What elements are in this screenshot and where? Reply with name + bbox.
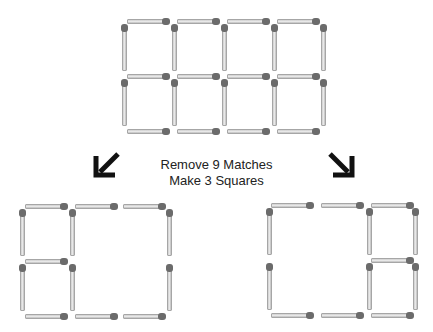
match-head bbox=[60, 313, 68, 320]
match-head bbox=[162, 73, 170, 80]
match-vertical[interactable] bbox=[122, 25, 127, 71]
match-head bbox=[60, 258, 68, 265]
match-horizontal[interactable] bbox=[123, 204, 165, 209]
match-horizontal[interactable] bbox=[371, 203, 413, 208]
match-horizontal[interactable] bbox=[75, 314, 117, 319]
match-head bbox=[221, 79, 228, 87]
match-head bbox=[320, 24, 327, 32]
match-head bbox=[366, 208, 373, 216]
match-vertical[interactable] bbox=[272, 80, 277, 126]
match-head bbox=[69, 264, 76, 272]
match-head bbox=[271, 79, 278, 87]
match-vertical[interactable] bbox=[267, 209, 272, 255]
match-head bbox=[266, 208, 273, 216]
match-head bbox=[262, 18, 270, 25]
match-horizontal[interactable] bbox=[127, 74, 169, 79]
match-head bbox=[306, 312, 314, 319]
match-horizontal[interactable] bbox=[321, 313, 363, 318]
match-head bbox=[212, 128, 220, 135]
match-vertical[interactable] bbox=[267, 264, 272, 310]
match-head bbox=[412, 208, 419, 216]
match-vertical[interactable] bbox=[20, 210, 25, 256]
match-horizontal[interactable] bbox=[277, 19, 319, 24]
match-head bbox=[306, 202, 314, 209]
match-horizontal[interactable] bbox=[127, 19, 169, 24]
match-head bbox=[356, 312, 364, 319]
match-head bbox=[166, 264, 173, 272]
match-vertical[interactable] bbox=[367, 209, 372, 255]
match-horizontal[interactable] bbox=[277, 74, 319, 79]
match-vertical[interactable] bbox=[167, 210, 172, 256]
match-vertical[interactable] bbox=[222, 80, 227, 126]
match-horizontal[interactable] bbox=[371, 258, 413, 263]
match-head bbox=[312, 18, 320, 25]
match-head bbox=[262, 128, 270, 135]
match-head bbox=[312, 128, 320, 135]
match-head bbox=[271, 24, 278, 32]
match-head bbox=[121, 79, 128, 87]
match-vertical[interactable] bbox=[172, 25, 177, 71]
match-vertical[interactable] bbox=[413, 209, 418, 255]
arrow-down-left-icon bbox=[92, 152, 122, 178]
match-horizontal[interactable] bbox=[277, 129, 319, 134]
match-vertical[interactable] bbox=[20, 265, 25, 311]
match-head bbox=[221, 24, 228, 32]
match-horizontal[interactable] bbox=[271, 203, 313, 208]
match-horizontal[interactable] bbox=[25, 259, 67, 264]
match-vertical[interactable] bbox=[413, 264, 418, 310]
match-horizontal[interactable] bbox=[227, 74, 269, 79]
match-head bbox=[412, 263, 419, 271]
match-head bbox=[356, 202, 364, 209]
match-head bbox=[262, 73, 270, 80]
match-vertical[interactable] bbox=[167, 265, 172, 311]
match-vertical[interactable] bbox=[272, 25, 277, 71]
match-head bbox=[158, 313, 166, 320]
match-horizontal[interactable] bbox=[227, 129, 269, 134]
match-horizontal[interactable] bbox=[371, 313, 413, 318]
match-head bbox=[320, 79, 327, 87]
match-head bbox=[19, 209, 26, 217]
match-vertical[interactable] bbox=[321, 80, 326, 126]
match-head bbox=[110, 203, 118, 210]
match-head bbox=[366, 263, 373, 271]
match-horizontal[interactable] bbox=[177, 129, 219, 134]
match-head bbox=[121, 24, 128, 32]
match-horizontal[interactable] bbox=[177, 19, 219, 24]
match-head bbox=[171, 24, 178, 32]
match-horizontal[interactable] bbox=[75, 204, 117, 209]
match-head bbox=[312, 73, 320, 80]
match-vertical[interactable] bbox=[222, 25, 227, 71]
match-horizontal[interactable] bbox=[271, 313, 313, 318]
caption-line-2: Make 3 Squares bbox=[150, 173, 283, 189]
match-head bbox=[406, 312, 414, 319]
match-vertical[interactable] bbox=[122, 80, 127, 126]
caption-line-1: Remove 9 Matches bbox=[150, 157, 283, 173]
match-head bbox=[162, 128, 170, 135]
match-horizontal[interactable] bbox=[177, 74, 219, 79]
match-head bbox=[69, 209, 76, 217]
match-head bbox=[266, 263, 273, 271]
match-vertical[interactable] bbox=[321, 25, 326, 71]
match-head bbox=[158, 203, 166, 210]
match-horizontal[interactable] bbox=[321, 203, 363, 208]
match-vertical[interactable] bbox=[172, 80, 177, 126]
match-head bbox=[110, 313, 118, 320]
match-horizontal[interactable] bbox=[25, 204, 67, 209]
match-vertical[interactable] bbox=[70, 265, 75, 311]
match-head bbox=[60, 203, 68, 210]
match-head bbox=[166, 209, 173, 217]
match-horizontal[interactable] bbox=[25, 314, 67, 319]
arrow-down-right-icon bbox=[326, 152, 356, 178]
match-head bbox=[212, 73, 220, 80]
match-head bbox=[19, 264, 26, 272]
match-horizontal[interactable] bbox=[127, 129, 169, 134]
match-horizontal[interactable] bbox=[227, 19, 269, 24]
match-head bbox=[212, 18, 220, 25]
puzzle-caption: Remove 9 Matches Make 3 Squares bbox=[150, 157, 283, 189]
match-vertical[interactable] bbox=[70, 210, 75, 256]
match-vertical[interactable] bbox=[367, 264, 372, 310]
match-horizontal[interactable] bbox=[123, 314, 165, 319]
match-head bbox=[171, 79, 178, 87]
match-head bbox=[162, 18, 170, 25]
